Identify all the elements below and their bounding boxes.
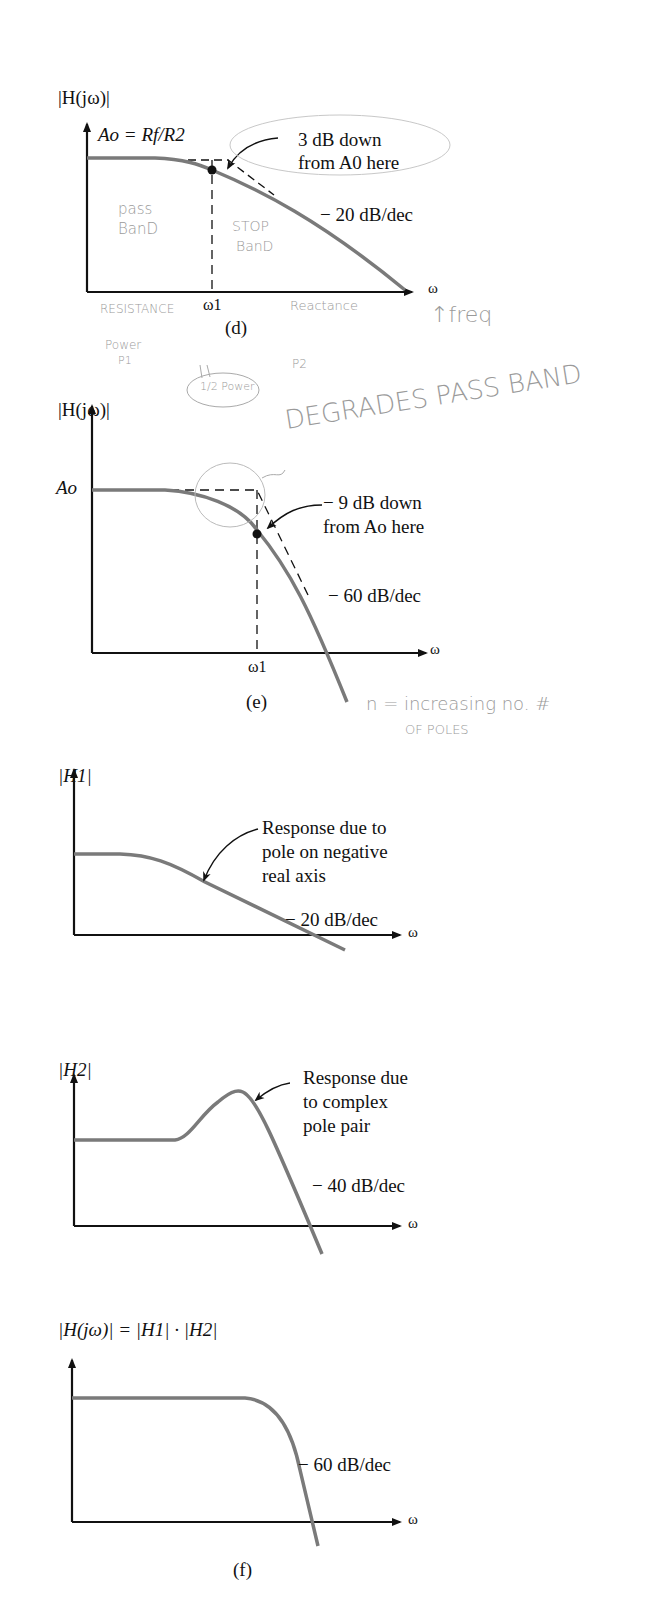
panel-h1-slope-label: − 20 dB/dec bbox=[285, 910, 378, 931]
panel-d-gain-label: Ao = Rf/R2 bbox=[98, 125, 185, 146]
panel-d-ylabel: |H(jω)| bbox=[58, 88, 110, 109]
panel-d-annotation-line2: from A0 here bbox=[298, 153, 399, 174]
panel-h2-xlabel: ω bbox=[408, 1215, 418, 1232]
handwriting-of-poles: OF POLES bbox=[405, 722, 469, 737]
panel-h1-annotation-line1: Response due to bbox=[262, 818, 387, 839]
panel-h2-annotation-line1: Response due bbox=[303, 1068, 408, 1089]
handwriting-power: Power bbox=[105, 338, 141, 352]
panel-e-caption: (e) bbox=[246, 692, 267, 713]
panel-h2-slope-label: − 40 dB/dec bbox=[312, 1176, 405, 1197]
handwriting-resistance: RESISTANCE bbox=[100, 302, 174, 316]
panel-e-annotation-line2: from Ao here bbox=[323, 517, 424, 538]
panel-d-caption: (d) bbox=[225, 318, 247, 339]
handwriting-stop: STOP bbox=[232, 218, 269, 234]
panel-d-tick: ω1 bbox=[203, 296, 222, 314]
panel-d-slope-label: − 20 dB/dec bbox=[320, 205, 413, 226]
panel-e-tick: ω1 bbox=[248, 658, 267, 676]
handwriting-p1: P1 bbox=[118, 354, 132, 367]
panel-e-xlabel: ω bbox=[430, 641, 440, 658]
panel-e-slope-label: − 60 dB/dec bbox=[328, 586, 421, 607]
panel-h2-annotation-line2: to complex bbox=[303, 1092, 388, 1113]
handwriting-reactance: Reactance bbox=[290, 298, 358, 313]
panel-f-xlabel: ω bbox=[408, 1511, 418, 1528]
handwriting-n-increasing: n = increasing no. # bbox=[366, 693, 550, 714]
panel-e-ylabel: |H(jω)| bbox=[58, 400, 110, 421]
panel-h1-annotation-line3: real axis bbox=[262, 866, 326, 887]
corner-point bbox=[208, 166, 217, 175]
panel-h1-annotation-line2: pole on negative bbox=[262, 842, 388, 863]
panel-f-slope-label: − 60 dB/dec bbox=[298, 1455, 391, 1476]
handwriting-stop-band: BanD bbox=[236, 238, 273, 254]
handwriting-band: BanD bbox=[118, 220, 158, 238]
panel-e-gain-label: Ao bbox=[56, 478, 77, 499]
panel-h2-ylabel: |H2| bbox=[58, 1060, 92, 1081]
panel-h1-ylabel: |H1| bbox=[58, 766, 92, 787]
bode-diagrams bbox=[0, 0, 657, 1619]
panel-f-caption: (f) bbox=[233, 1560, 252, 1581]
panel-h1-xlabel: ω bbox=[408, 924, 418, 941]
handwriting-half-power: 1/2 Power bbox=[200, 380, 254, 393]
panel-d-annotation-line1: 3 dB down bbox=[298, 130, 381, 151]
handwriting-pass: pass bbox=[118, 200, 152, 218]
handwriting-freq: ↑freq bbox=[430, 302, 492, 327]
panel-d-xlabel: ω bbox=[428, 280, 438, 297]
panel-h2-annotation-line3: pole pair bbox=[303, 1116, 370, 1137]
panel-f bbox=[72, 1360, 400, 1546]
panel-f-ylabel: |H(jω)| = |H1| · |H2| bbox=[58, 1320, 217, 1341]
panel-e-annotation-line1: − 9 dB down bbox=[323, 493, 422, 514]
handwriting-p2: P2 bbox=[292, 357, 307, 371]
